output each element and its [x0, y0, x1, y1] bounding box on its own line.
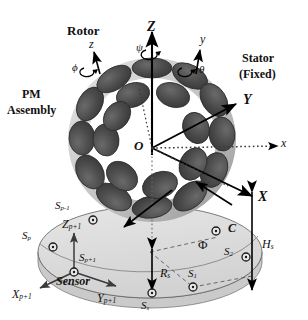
label-stator-fixed: (Fixed)	[239, 68, 276, 80]
sensor-marker[interactable]	[242, 253, 250, 261]
sensor-marker[interactable]	[189, 283, 197, 291]
angle-label-theta: θ	[199, 64, 204, 75]
axis-label-x: x	[281, 137, 286, 149]
sensor-label-S2: S2	[224, 246, 233, 258]
sensor-label-Ss-sub: s	[147, 304, 150, 311]
dimension-label-Hs-sub: s	[271, 242, 274, 251]
sensor-label-Sp-plus-1: Sp+1	[79, 252, 96, 264]
dimension-label-Rs: Rs	[160, 267, 170, 280]
axis-label-Zp1-base: Z	[62, 217, 69, 231]
axis-label-Yp1: Yp+1	[97, 292, 116, 305]
sensor-marker[interactable]	[148, 289, 156, 297]
sensor-label-S1-sub: 1	[194, 272, 197, 279]
axis-label-y: y	[200, 33, 205, 45]
sensor-marker[interactable]	[212, 227, 220, 235]
figure-canvas: Rotor Stator (Fixed) PM Assembly Sensor …	[0, 0, 308, 320]
sensor-label-Sp-sub: p	[28, 234, 31, 241]
sensor-label-Sp-minus-1: Sp-1	[55, 200, 70, 212]
dimension-label-Rs-sub: s	[167, 271, 170, 280]
axis-label-Zp1-sub: p+1	[69, 222, 81, 231]
axis-label-X: X	[258, 190, 267, 204]
axis-label-Yp1-base: Y	[97, 291, 104, 305]
dimension-label-Hs: Hs	[262, 238, 274, 251]
sensor-marker[interactable]	[49, 243, 57, 251]
sensor-label-S1: S1	[188, 268, 197, 280]
label-sensor: Sensor	[56, 275, 90, 287]
angle-label-psi: ψ	[136, 42, 143, 53]
sensor-marker[interactable]	[89, 216, 97, 224]
axis-label-Xp1-sub: p+1	[19, 292, 31, 301]
sensor-label-S2-sub: 2	[230, 250, 233, 257]
sensor-label-Spp1-sub: p+1	[85, 256, 96, 263]
angle-label-phi-sensor: Φ	[198, 238, 208, 251]
sensor-label-Sp: Sp	[22, 230, 31, 242]
angle-label-phi-rotor: ϕ	[72, 62, 78, 73]
label-stator: Stator	[242, 52, 274, 64]
sensor-label-Ss: Ss	[141, 300, 149, 312]
rotation-arc-phi	[80, 68, 94, 77]
axis-label-Y: Y	[243, 93, 252, 107]
axis-label-z: z	[89, 38, 94, 50]
label-point-C: C	[228, 222, 236, 234]
axis-label-Zp1: Zp+1	[62, 218, 81, 231]
axis-label-Xp1: Xp+1	[12, 288, 32, 301]
axis-label-Yp1-sub: p+1	[104, 296, 116, 305]
axis-label-Z: Z	[147, 20, 156, 34]
diagram-svg	[0, 0, 308, 320]
dimension-label-Hs-base: H	[262, 237, 271, 251]
label-rotor: Rotor	[67, 24, 100, 37]
sensor-label-Spm1-sub: p-1	[61, 204, 70, 211]
label-assembly: Assembly	[7, 104, 56, 116]
label-origin-O: O	[134, 139, 143, 152]
label-pm: PM	[22, 88, 41, 100]
magnet	[178, 108, 214, 147]
